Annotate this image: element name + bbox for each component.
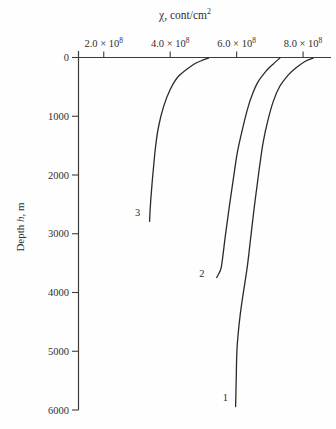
x-tick-label: 4.0 × 108	[151, 36, 190, 49]
figure-page: χ, cont/cm2 Depth h, m 2.0 × 1084.0 × 10…	[0, 0, 336, 429]
curve-2	[217, 58, 280, 277]
y-tick-label: 4000	[48, 287, 69, 298]
chart-canvas: 2.0 × 1084.0 × 1086.0 × 1088.0 × 1080100…	[0, 0, 336, 429]
x-tick-label: 8.0 × 108	[284, 36, 323, 49]
y-tick-label: 3000	[48, 228, 69, 239]
curve-label-3: 3	[135, 207, 140, 218]
x-tick-label: 2.0 × 108	[84, 36, 123, 49]
y-tick-label: 6000	[48, 405, 69, 416]
y-tick-label: 2000	[48, 170, 69, 181]
y-tick-label: 5000	[48, 346, 69, 357]
y-tick-label: 1000	[48, 111, 69, 122]
curve-label-1: 1	[223, 392, 228, 403]
x-tick-label: 6.0 × 108	[217, 36, 256, 49]
curve-3	[150, 58, 209, 221]
y-tick-label: 0	[64, 52, 69, 63]
curve-label-2: 2	[199, 268, 204, 279]
